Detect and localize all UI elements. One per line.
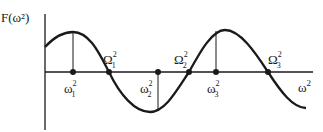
omega1-dot bbox=[70, 69, 76, 75]
Omega2-dot bbox=[186, 69, 192, 75]
x-axis-label: ω2 bbox=[298, 78, 311, 95]
omega3-dot bbox=[213, 69, 219, 75]
omega2-label: ω22 bbox=[140, 79, 153, 99]
omega3-label: ω23 bbox=[207, 79, 220, 99]
Omega3-label: Ω23 bbox=[268, 50, 282, 70]
y-axis-label: F(ω²) bbox=[1, 10, 29, 25]
Omega3-dot bbox=[265, 69, 271, 75]
diagram-canvas: F(ω²) ω2 ω21 ω22 ω23 Ω21 Ω22 Ω23 bbox=[0, 0, 323, 132]
Omega2-label: Ω22 bbox=[174, 50, 188, 70]
omega1-label: ω21 bbox=[64, 79, 77, 99]
omega2-dot bbox=[155, 69, 161, 75]
Omega1-label: Ω21 bbox=[103, 50, 117, 70]
